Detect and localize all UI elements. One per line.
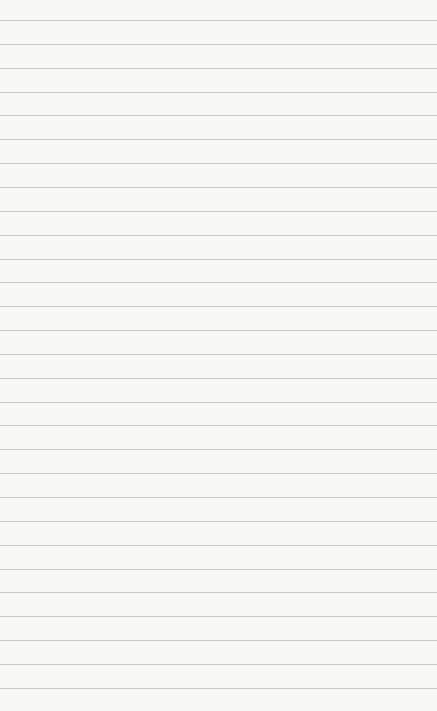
ruled-line xyxy=(0,569,437,570)
ruled-line xyxy=(0,473,437,474)
ruled-line xyxy=(0,306,437,307)
ruled-line xyxy=(0,259,437,260)
ruled-line xyxy=(0,187,437,188)
ruled-line xyxy=(0,282,437,283)
ruled-line xyxy=(0,354,437,355)
ruled-line xyxy=(0,688,437,689)
ruled-line xyxy=(0,402,437,403)
ruled-line xyxy=(0,640,437,641)
ruled-line xyxy=(0,139,437,140)
ruled-line xyxy=(0,664,437,665)
ruled-line xyxy=(0,235,437,236)
ruled-line xyxy=(0,592,437,593)
ruled-line xyxy=(0,20,437,21)
ruled-line xyxy=(0,68,437,69)
ruled-line xyxy=(0,449,437,450)
lined-paper xyxy=(0,0,437,711)
ruled-line xyxy=(0,521,437,522)
ruled-line xyxy=(0,330,437,331)
ruled-line xyxy=(0,425,437,426)
ruled-line xyxy=(0,497,437,498)
ruled-line xyxy=(0,44,437,45)
ruled-line xyxy=(0,378,437,379)
ruled-line xyxy=(0,92,437,93)
ruled-line xyxy=(0,211,437,212)
ruled-line xyxy=(0,616,437,617)
ruled-line xyxy=(0,115,437,116)
ruled-line xyxy=(0,545,437,546)
ruled-line xyxy=(0,163,437,164)
